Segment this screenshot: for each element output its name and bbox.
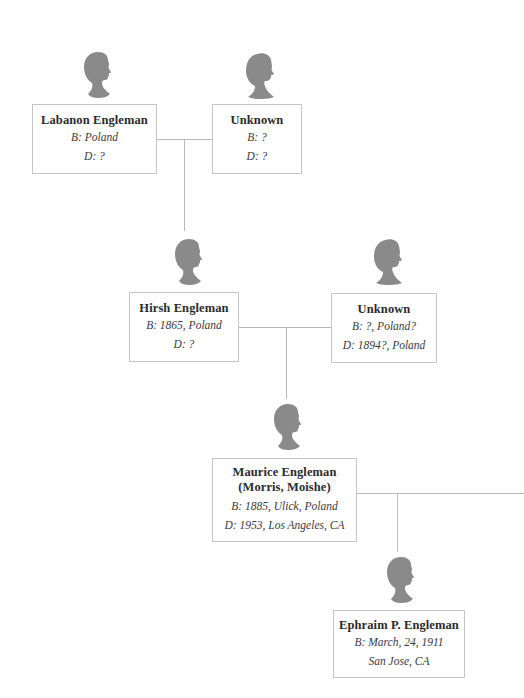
person-name: Labanon Engleman [41, 113, 148, 128]
person-birthplace: San Jose, CA [368, 652, 429, 671]
person-death: D: ? [174, 335, 195, 354]
person-aka: (Morris, Moishe) [238, 480, 331, 495]
person-name: Ephraim P. Engleman [339, 618, 459, 633]
female-silhouette-icon [236, 51, 280, 101]
male-silhouette-icon [165, 237, 209, 287]
male-silhouette-icon [377, 555, 421, 605]
person-birth: B: ?, Poland? [352, 317, 416, 336]
person-birth: B: ? [247, 128, 266, 147]
person-card-unknown-gen1[interactable]: Unknown B: ? D: ? [212, 104, 302, 174]
person-card-maurice-engleman[interactable]: Maurice Engleman (Morris, Moishe) B: 188… [212, 458, 357, 542]
person-death: D: 1894?, Poland [343, 336, 426, 355]
person-card-unknown-gen2[interactable]: Unknown B: ?, Poland? D: 1894?, Poland [331, 293, 437, 363]
male-silhouette-icon [264, 402, 308, 452]
person-birth: B: Poland [71, 128, 118, 147]
male-silhouette-icon [74, 50, 118, 100]
person-card-labanon-engleman[interactable]: Labanon Engleman B: Poland D: ? [32, 104, 157, 174]
descent-connector-gen1 [184, 139, 185, 231]
person-death: D: ? [247, 147, 268, 166]
person-name: Unknown [231, 113, 284, 128]
person-birth: B: 1885, Ulick, Poland [231, 497, 337, 516]
couple-connector-gen2 [238, 327, 331, 328]
person-card-ephraim-engleman[interactable]: Ephraim P. Engleman B: March, 24, 1911 S… [333, 610, 465, 678]
person-death: D: 1953, Los Angeles, CA [225, 516, 345, 535]
descent-connector-gen2 [286, 327, 287, 399]
person-name: Maurice Engleman [232, 465, 336, 480]
female-silhouette-icon [364, 237, 408, 287]
person-death: D: ? [84, 147, 105, 166]
person-name: Unknown [358, 302, 411, 317]
person-card-hirsh-engleman[interactable]: Hirsh Engleman B: 1865, Poland D: ? [129, 292, 239, 362]
person-birth: B: March, 24, 1911 [354, 633, 443, 652]
person-birth: B: 1865, Poland [146, 316, 222, 335]
descent-connector-gen3 [397, 493, 398, 552]
person-name: Hirsh Engleman [139, 301, 228, 316]
couple-connector-gen3 [356, 493, 524, 494]
